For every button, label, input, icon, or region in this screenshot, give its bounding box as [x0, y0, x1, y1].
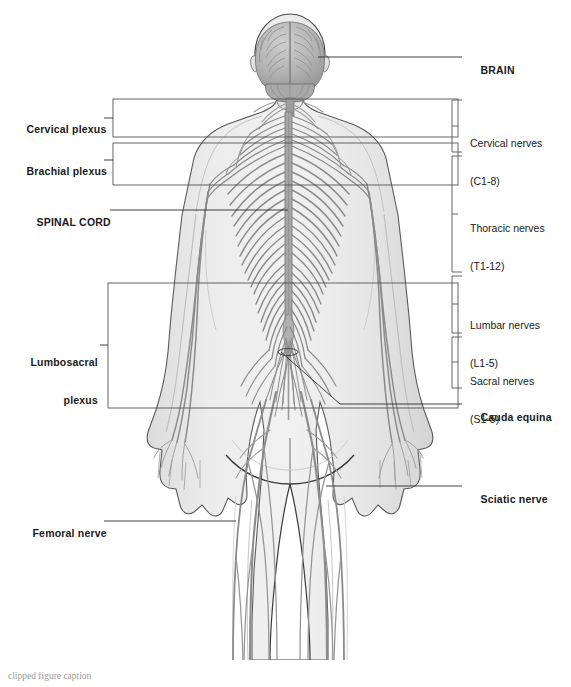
- label-lumbosacral-plexus-line2: plexus: [0, 394, 98, 407]
- label-sciatic-nerve: Sciatic nerve: [468, 480, 548, 518]
- figure-caption-text: clipped figure caption: [8, 672, 91, 681]
- label-femoral-nerve: Femoral nerve: [20, 514, 107, 552]
- label-lumbar-nerves-line1: Lumbar nerves: [470, 319, 540, 332]
- label-spinal-cord: SPINAL CORD: [24, 203, 111, 241]
- figure-caption-clipped: clipped figure caption: [0, 672, 571, 687]
- label-brain: BRAIN: [468, 51, 515, 89]
- label-thoracic-nerves: Thoracic nerves (T1-12): [470, 197, 545, 297]
- label-brachial-plexus: Brachial plexus: [14, 152, 107, 190]
- brain: [255, 22, 324, 116]
- label-cervical-plexus: Cervical plexus: [14, 110, 107, 148]
- label-sacral-nerves-line1: Sacral nerves: [470, 375, 534, 388]
- figure-stage: Cervical plexus Brachial plexus SPINAL C…: [0, 0, 571, 687]
- label-cervical-nerves-line1: Cervical nerves: [470, 137, 542, 150]
- label-thoracic-nerves-line2: (T1-12): [470, 260, 545, 273]
- label-cervical-nerves-line2: (C1-8): [470, 175, 542, 188]
- label-lumbosacral-plexus: Lumbosacral plexus: [0, 331, 98, 431]
- label-thoracic-nerves-line1: Thoracic nerves: [470, 222, 545, 235]
- label-lumbosacral-plexus-line1: Lumbosacral: [0, 356, 98, 369]
- bracket-lumbar: [452, 276, 462, 333]
- bracket-sacral: [452, 337, 462, 388]
- label-cauda-equina: Cauda equina: [468, 398, 552, 436]
